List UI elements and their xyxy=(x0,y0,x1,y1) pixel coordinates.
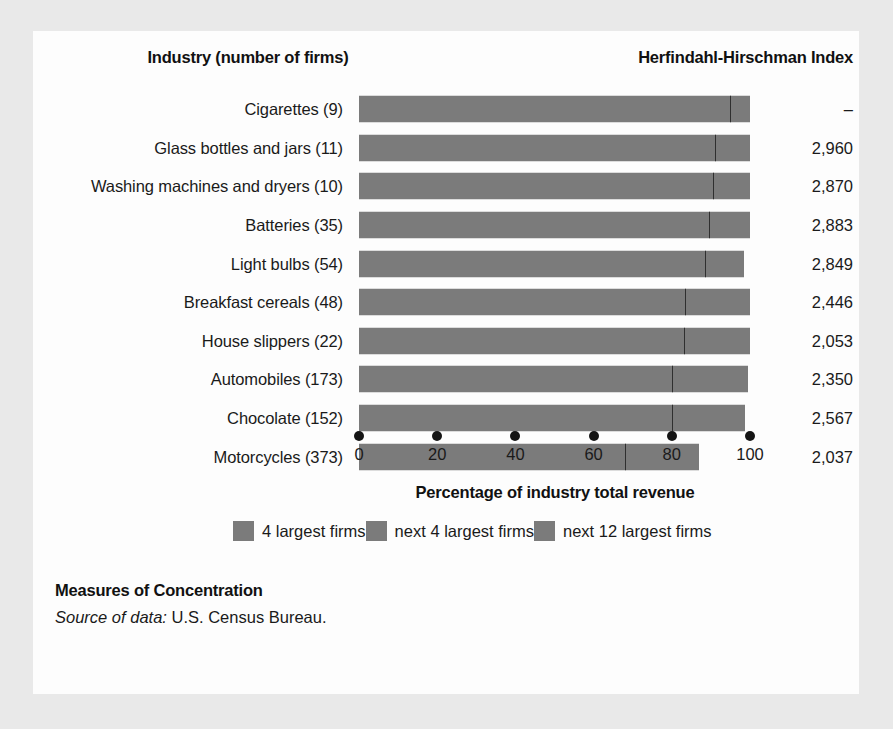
table-row: House slippers (22)2,053 xyxy=(33,322,859,361)
bar-segment-next12 xyxy=(672,405,745,432)
bar-segment-next12 xyxy=(709,212,750,239)
industry-label: House slippers (22) xyxy=(33,331,343,350)
bar-segment-next12 xyxy=(715,134,750,161)
bar-track xyxy=(359,366,748,393)
legend-swatch xyxy=(534,521,555,541)
stacked-bar xyxy=(359,289,750,316)
industry-label: Breakfast cereals (48) xyxy=(33,293,343,312)
x-tick-dot-icon xyxy=(510,431,520,441)
bar-track xyxy=(359,327,750,354)
bar-segment-top4 xyxy=(359,212,709,239)
bar-track xyxy=(359,134,750,161)
bar-segment-next12 xyxy=(713,173,750,200)
x-tick-label: 0 xyxy=(329,445,389,464)
hhi-value: 2,849 xyxy=(775,254,853,273)
table-row: Batteries (35)2,883 xyxy=(33,206,859,245)
table-row: Cigarettes (9)– xyxy=(33,90,859,129)
hhi-value: 2,350 xyxy=(775,370,853,389)
bar-segment-top4 xyxy=(359,96,730,123)
legend-item: next 4 largest firms xyxy=(366,521,534,541)
x-tick-label: 20 xyxy=(407,445,467,464)
stacked-bar xyxy=(359,134,750,161)
source-value: U.S. Census Bureau. xyxy=(172,608,327,626)
source-label: Source of data: xyxy=(55,608,167,626)
stacked-bar xyxy=(359,212,750,239)
bar-segment-next12 xyxy=(684,327,750,354)
bar-segment-next12 xyxy=(705,250,744,277)
hhi-value: 2,053 xyxy=(775,331,853,350)
hhi-value: 2,960 xyxy=(775,138,853,157)
caption-source: Source of data: U.S. Census Bureau. xyxy=(55,608,327,627)
x-tick-label: 80 xyxy=(642,445,702,464)
caption-title: Measures of Concentration xyxy=(55,581,263,600)
bar-segment-top4 xyxy=(359,289,685,316)
bar-track xyxy=(359,250,744,277)
hhi-value: 2,870 xyxy=(775,177,853,196)
bar-segment-next12 xyxy=(730,96,750,123)
bar-segment-next12 xyxy=(685,289,750,316)
hhi-value: 2,567 xyxy=(775,409,853,428)
industry-label: Automobiles (173) xyxy=(33,370,343,389)
x-tick-dot-icon xyxy=(745,431,755,441)
bar-segment-top4 xyxy=(359,327,684,354)
x-tick-dot-icon xyxy=(589,431,599,441)
table-row: Breakfast cereals (48)2,446 xyxy=(33,283,859,322)
bar-track xyxy=(359,289,750,316)
bar-segment-top4 xyxy=(359,173,713,200)
bar-track xyxy=(359,405,745,432)
legend-label: next 4 largest firms xyxy=(395,522,534,541)
industry-label: Batteries (35) xyxy=(33,216,343,235)
bar-segment-next12 xyxy=(672,366,748,393)
table-row: Light bulbs (54)2,849 xyxy=(33,244,859,283)
legend-label: 4 largest firms xyxy=(262,522,366,541)
bar-segment-top4 xyxy=(359,250,705,277)
stacked-bar xyxy=(359,96,750,123)
x-axis: 020406080100 xyxy=(359,431,759,486)
bar-rows: Cigarettes (9)–Glass bottles and jars (1… xyxy=(33,31,859,441)
bar-track xyxy=(359,173,750,200)
hhi-value: 2,883 xyxy=(775,216,853,235)
x-tick-label: 40 xyxy=(485,445,545,464)
industry-label: Cigarettes (9) xyxy=(33,100,343,119)
bar-track xyxy=(359,212,750,239)
industry-label: Light bulbs (54) xyxy=(33,254,343,273)
x-tick-dot-icon xyxy=(354,431,364,441)
bar-track xyxy=(359,96,750,123)
industry-label: Motorcycles (373) xyxy=(33,447,343,466)
stacked-bar xyxy=(359,327,750,354)
stacked-bar xyxy=(359,405,745,432)
x-axis-title: Percentage of industry total revenue xyxy=(359,483,751,502)
stacked-bar xyxy=(359,250,744,277)
x-tick-label: 60 xyxy=(564,445,624,464)
chart-panel: Industry (number of firms) Herfindahl-Hi… xyxy=(33,31,859,694)
legend-item: next 12 largest firms xyxy=(534,521,712,541)
legend: 4 largest firmsnext 4 largest firmsnext … xyxy=(233,521,693,541)
bar-segment-top4 xyxy=(359,405,672,432)
legend-item: 4 largest firms xyxy=(233,521,366,541)
industry-label: Chocolate (152) xyxy=(33,409,343,428)
figure-container: Industry (number of firms) Herfindahl-Hi… xyxy=(0,0,893,729)
legend-label: next 12 largest firms xyxy=(563,522,712,541)
legend-swatch xyxy=(233,521,254,541)
stacked-bar xyxy=(359,366,748,393)
hhi-value: 2,037 xyxy=(775,447,853,466)
hhi-value: 2,446 xyxy=(775,293,853,312)
table-row: Glass bottles and jars (11)2,960 xyxy=(33,129,859,168)
x-tick-label: 100 xyxy=(720,445,780,464)
bar-segment-top4 xyxy=(359,366,672,393)
hhi-value: – xyxy=(775,100,853,119)
stacked-bar xyxy=(359,173,750,200)
x-tick-dot-icon xyxy=(432,431,442,441)
industry-label: Glass bottles and jars (11) xyxy=(33,138,343,157)
table-row: Washing machines and dryers (10)2,870 xyxy=(33,167,859,206)
x-tick-dot-icon xyxy=(667,431,677,441)
bar-segment-top4 xyxy=(359,134,715,161)
table-row: Automobiles (173)2,350 xyxy=(33,360,859,399)
industry-label: Washing machines and dryers (10) xyxy=(33,177,343,196)
legend-swatch xyxy=(366,521,387,541)
